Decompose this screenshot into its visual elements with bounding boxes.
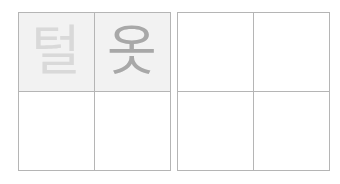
trace-cell-2: 옷 — [95, 13, 171, 92]
practice-cell-5[interactable] — [178, 13, 254, 92]
practice-grid-right — [177, 12, 330, 171]
practice-cell-7[interactable] — [178, 92, 254, 171]
practice-cell-3[interactable] — [19, 92, 95, 171]
trace-cell-1: 털 — [19, 13, 95, 92]
practice-cell-6[interactable] — [254, 13, 330, 92]
trace-character-1: 털 — [31, 25, 81, 79]
trace-character-2: 옷 — [107, 25, 157, 79]
practice-cell-4[interactable] — [95, 92, 171, 171]
tracing-grid-left: 털 옷 — [18, 12, 171, 171]
practice-cell-8[interactable] — [254, 92, 330, 171]
